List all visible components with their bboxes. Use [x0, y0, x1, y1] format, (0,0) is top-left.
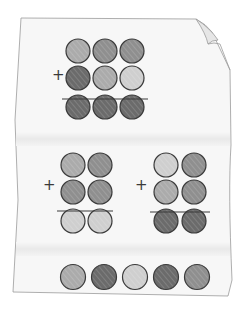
worksheet-illustration: +++	[0, 0, 244, 321]
right-puzzle-circle-hatching	[155, 154, 177, 176]
fold-crease-1	[16, 132, 230, 146]
left-puzzle-circle-hatching	[62, 154, 84, 176]
left-puzzle-circle-hatching	[89, 181, 111, 203]
answer-row-circle-hatching	[155, 266, 178, 289]
right-puzzle-circle-hatching	[183, 154, 205, 176]
right-puzzle-plus-sign: +	[135, 176, 148, 194]
top-puzzle-circle-hatching	[67, 67, 89, 89]
top-puzzle-circle-hatching	[121, 40, 143, 62]
top-puzzle-circle-hatching	[67, 40, 89, 62]
left-puzzle-circle-hatching	[89, 210, 111, 232]
left-puzzle-circle-hatching	[62, 210, 84, 232]
answer-row-circle-hatching	[124, 266, 147, 289]
top-puzzle-circle-hatching	[94, 40, 116, 62]
right-puzzle-circle-hatching	[183, 210, 205, 232]
top-puzzle-plus-sign: +	[52, 66, 65, 84]
fold-crease-2	[16, 242, 230, 256]
answer-row-circle-hatching	[93, 266, 116, 289]
answer-row-circle-hatching	[62, 266, 85, 289]
right-puzzle-circle-hatching	[183, 181, 205, 203]
left-puzzle-plus-sign: +	[43, 176, 56, 194]
top-puzzle-circle-hatching	[94, 67, 116, 89]
left-puzzle-circle-hatching	[89, 154, 111, 176]
answer-row-circle-hatching	[186, 266, 209, 289]
top-puzzle-circle-hatching	[121, 67, 143, 89]
left-puzzle-circle-hatching	[62, 181, 84, 203]
right-puzzle-circle-hatching	[155, 181, 177, 203]
right-puzzle-circle-hatching	[155, 210, 177, 232]
